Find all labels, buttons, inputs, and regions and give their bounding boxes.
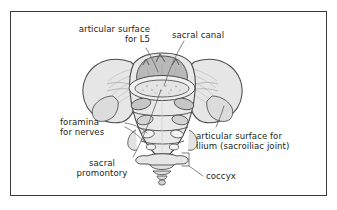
label-line: sacral [62,158,142,168]
coccyx-segment-1 [136,154,188,167]
label-line: coccyx [206,171,262,181]
coccyx-segment-4-tip [157,176,167,180]
label-line: sacral canal [172,30,252,40]
label-line: promontory [62,168,142,178]
label-line: articular surface [58,24,150,34]
coccyx-tip-nub [159,180,166,185]
leader-coccyx [189,166,203,176]
label-line: articular surface for [196,131,320,141]
sacral-lateral-notch-left [128,130,137,150]
label-line: for nerves [60,127,126,137]
figure-root: articular surface for L5 sacral canal fo… [0,0,337,210]
coccyx-segment-3 [153,171,171,175]
label-line: for L5 [58,34,150,44]
label-sacral-promontory: sacral promontory [62,158,142,179]
label-line: ilium (sacroiliac joint) [196,141,320,151]
coccyx-segment-2 [150,165,174,170]
label-foramina-for-nerves: foramina for nerves [60,117,126,138]
label-articular-surface-ilium: articular surface for ilium (sacroiliac … [196,131,320,152]
label-sacral-canal: sacral canal [172,30,252,40]
label-line: foramina [60,117,126,127]
label-articular-surface-l5: articular surface for L5 [58,24,150,45]
sacral-canal-opening [135,80,189,97]
foramen-s4-right [169,144,178,150]
sacrum-diagram [0,0,337,210]
label-coccyx: coccyx [206,171,262,181]
